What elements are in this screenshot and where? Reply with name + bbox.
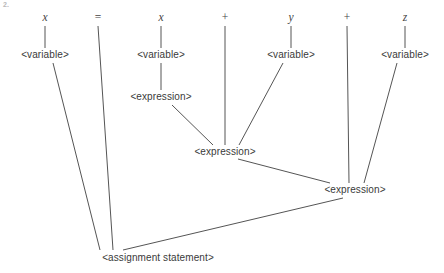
- nonterminal-node-e2: <expression>: [194, 147, 255, 157]
- nonterminal-node-e1: <expression>: [130, 92, 191, 102]
- terminal-node-t-z: z: [403, 12, 407, 24]
- nonterminal-node-v3: <variable>: [267, 50, 315, 60]
- nonterminal-node-v1: <variable>: [21, 50, 69, 60]
- nonterminal-node-v4: <variable>: [381, 50, 429, 60]
- nonterminal-node-e3: <expression>: [324, 185, 385, 195]
- terminal-node-t-p1: +: [222, 12, 229, 24]
- tree-edge-e2-to-e3: [238, 159, 330, 183]
- tree-edge-v3-to-e2: [239, 63, 283, 145]
- terminal-node-t-p2: +: [344, 12, 351, 24]
- tree-edge-e3-to-root: [123, 198, 343, 250]
- tree-edge-e1-to-e2: [172, 105, 213, 145]
- terminal-node-t-eq: =: [95, 12, 102, 24]
- terminal-node-t-x2: x: [158, 12, 163, 24]
- terminal-node-t-x1: x: [42, 12, 47, 24]
- figure-label: 2.: [3, 1, 9, 8]
- tree-edge-t-p2-to-e3: [347, 26, 349, 183]
- tree-edge-v1-to-root: [53, 63, 100, 250]
- tree-edge-v4-to-e3: [364, 63, 397, 183]
- terminal-node-t-y: y: [288, 12, 293, 24]
- tree-edges: [0, 0, 444, 273]
- nonterminal-node-v2: <variable>: [137, 50, 185, 60]
- parse-tree-figure: 2. x=x+y+z<variable><variable><variable>…: [0, 0, 444, 273]
- tree-edge-t-eq-to-root: [98, 26, 113, 250]
- nonterminal-node-root: <assignment statement>: [102, 253, 214, 263]
